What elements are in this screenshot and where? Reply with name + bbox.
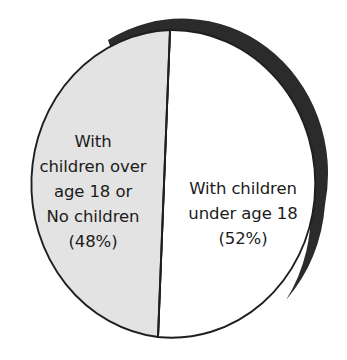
pie-chart-figure: With children over age 18 or No children… (0, 0, 347, 360)
pie-chart-svg (0, 0, 347, 360)
pie-slice-with-children-over-18-or-no-children[interactable] (31, 30, 170, 337)
